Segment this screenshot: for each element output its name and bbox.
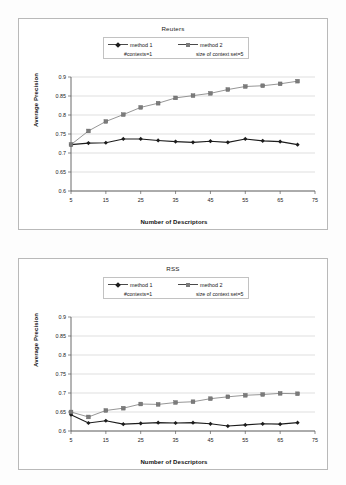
svg-text:0.6: 0.6 <box>59 188 67 194</box>
plot-svg-rss: 0.60.650.70.750.80.850.9515253545556575 <box>19 259 329 471</box>
plot-area-rss: 0.60.650.70.750.80.850.9515253545556575 … <box>19 259 329 471</box>
svg-text:45: 45 <box>207 197 213 203</box>
svg-text:0.65: 0.65 <box>56 409 67 415</box>
svg-text:0.7: 0.7 <box>59 150 67 156</box>
svg-text:15: 15 <box>103 437 109 443</box>
svg-text:25: 25 <box>138 437 144 443</box>
y-axis-title-rss: Average Precision <box>33 305 39 375</box>
svg-text:35: 35 <box>173 197 179 203</box>
svg-text:5: 5 <box>70 197 73 203</box>
svg-text:0.9: 0.9 <box>59 314 67 320</box>
x-axis-title-reuters: Number of Descriptors <box>19 219 329 225</box>
svg-text:75: 75 <box>312 197 318 203</box>
svg-text:0.8: 0.8 <box>59 112 67 118</box>
svg-text:65: 65 <box>277 437 283 443</box>
svg-text:5: 5 <box>70 437 73 443</box>
svg-text:0.8: 0.8 <box>59 352 67 358</box>
figure-page: Reuters method 1 method 2 #contexts=1 si… <box>0 0 346 485</box>
plot-area-reuters: 0.60.650.70.750.80.850.9515253545556575 … <box>19 19 329 231</box>
svg-text:0.85: 0.85 <box>56 93 67 99</box>
svg-text:55: 55 <box>242 197 248 203</box>
svg-text:0.75: 0.75 <box>56 131 67 137</box>
plot-svg-reuters: 0.60.650.70.750.80.850.9515253545556575 <box>19 19 329 231</box>
svg-text:35: 35 <box>173 437 179 443</box>
svg-text:0.85: 0.85 <box>56 333 67 339</box>
chart-panel-reuters: Reuters method 1 method 2 #contexts=1 si… <box>18 18 328 230</box>
svg-text:0.6: 0.6 <box>59 428 67 434</box>
svg-text:65: 65 <box>277 197 283 203</box>
chart-panel-rss: RSS method 1 method 2 #contexts=1 size o… <box>18 258 328 470</box>
svg-text:0.9: 0.9 <box>59 74 67 80</box>
x-axis-title-rss: Number of Descriptors <box>19 459 329 465</box>
svg-text:15: 15 <box>103 197 109 203</box>
svg-text:55: 55 <box>242 437 248 443</box>
svg-text:25: 25 <box>138 197 144 203</box>
y-axis-title-reuters: Average Precision <box>33 65 39 135</box>
svg-text:0.65: 0.65 <box>56 169 67 175</box>
svg-text:0.7: 0.7 <box>59 390 67 396</box>
svg-text:45: 45 <box>207 437 213 443</box>
svg-text:75: 75 <box>312 437 318 443</box>
svg-text:0.75: 0.75 <box>56 371 67 377</box>
